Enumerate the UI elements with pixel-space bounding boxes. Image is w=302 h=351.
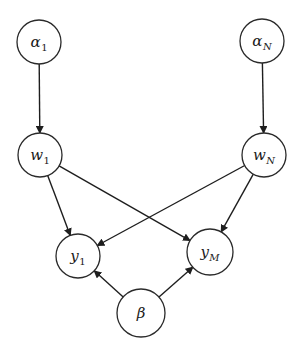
node-symbol: w [30, 146, 43, 164]
node-symbol: α [252, 32, 262, 50]
node-yM: yM [187, 229, 233, 275]
nodes-layer: α1αNw1wNy1yMβ [17, 19, 286, 337]
node-symbol: α [30, 33, 40, 51]
graphical-model-diagram: α1αNw1wNy1yMβ [0, 0, 302, 351]
node-symbol: y [199, 243, 209, 261]
node-subscript: 1 [79, 256, 85, 267]
edge-w1-to-y1 [48, 176, 71, 236]
node-label: β [136, 304, 146, 322]
edge-beta-to-y1 [94, 271, 123, 297]
node-alpha1: α1 [17, 20, 61, 64]
node-w1: w1 [18, 133, 62, 177]
edge-alphaN-to-wN [262, 63, 263, 133]
node-symbol: w [253, 146, 266, 164]
node-subscript: N [265, 155, 276, 166]
node-symbol: y [69, 247, 79, 265]
edge-beta-to-yM [159, 267, 193, 297]
edge-w1-to-yM [59, 166, 190, 241]
node-subscript: M [208, 252, 220, 263]
node-alphaN: αN [240, 19, 284, 63]
node-symbol: β [136, 304, 146, 322]
node-subscript: 1 [43, 155, 49, 166]
node-y1: y1 [56, 234, 100, 278]
node-wN: wN [242, 133, 286, 177]
node-subscript: 1 [41, 42, 47, 53]
node-beta: β [117, 289, 165, 337]
edge-wN-to-yM [221, 174, 253, 232]
edge-alpha1-to-w1 [39, 64, 40, 133]
node-subscript: N [262, 41, 273, 52]
